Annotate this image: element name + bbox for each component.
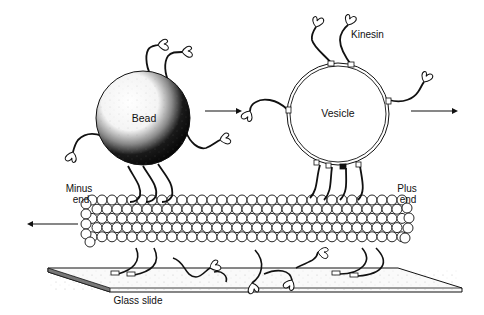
minus-end-label-line1: Minus: [66, 183, 93, 194]
kinesin-label: Kinesin: [351, 29, 384, 40]
bead-label: Bead: [132, 112, 157, 124]
vesicle-label: Vesicle: [321, 107, 354, 119]
glass-slide-label: Glass slide: [114, 295, 163, 306]
arrow-microtubule-motion: [27, 221, 78, 227]
kinesin-motility-diagram: Bead Vesicle Kinesin: [0, 0, 484, 315]
arrow-bead-to-vesicle: [205, 108, 242, 114]
minus-end-label-line2: end: [73, 194, 90, 205]
plus-end-label-line1: Plus: [397, 183, 416, 194]
arrow-vesicle-motion: [411, 108, 458, 114]
plus-end-label-line2: end: [400, 194, 417, 205]
